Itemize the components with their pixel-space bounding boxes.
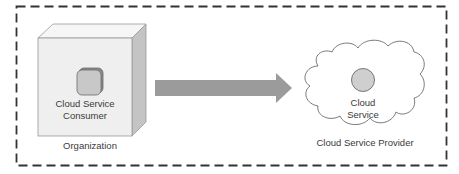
provider-label: Cloud Service Provider (300, 137, 430, 149)
organization-label: Organization (40, 140, 140, 152)
cube-side-face (132, 24, 146, 136)
consumer-label-line1: Cloud Service (38, 98, 132, 110)
consumer-icon (77, 68, 103, 95)
service-label-line2: Service (333, 109, 393, 121)
cloud-service-circle (352, 69, 375, 92)
arrow-icon (155, 73, 292, 103)
consumer-label-line2: Consumer (38, 110, 132, 122)
cube-top-face (38, 24, 146, 38)
service-label-line1: Cloud (333, 97, 393, 109)
